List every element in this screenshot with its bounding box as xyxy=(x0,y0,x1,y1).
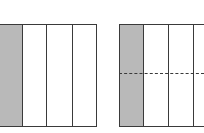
right-divider-1 xyxy=(143,24,144,127)
right-divider-3 xyxy=(193,24,194,127)
left-divider-3 xyxy=(72,24,73,127)
left-bottom-edge xyxy=(0,126,97,127)
left-divider-1 xyxy=(22,24,23,127)
right-shaded-region xyxy=(119,24,143,126)
left-top-edge xyxy=(0,24,97,25)
right-dashed-divider xyxy=(119,73,204,74)
left-right-edge xyxy=(96,24,97,127)
right-top-edge xyxy=(119,24,204,25)
left-divider-2 xyxy=(46,24,47,127)
left-shaded-region xyxy=(0,24,22,126)
right-bottom-edge xyxy=(119,126,204,127)
right-left-edge xyxy=(119,24,120,127)
right-divider-2 xyxy=(168,24,169,127)
